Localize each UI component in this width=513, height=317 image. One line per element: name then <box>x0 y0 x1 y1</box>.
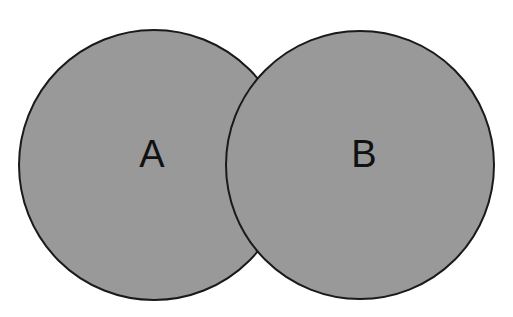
venn-diagram-figure: A B <box>0 0 513 317</box>
venn-diagram-canvas: A B <box>0 0 513 317</box>
set-label-b: B <box>351 133 376 175</box>
set-label-a: A <box>139 133 165 175</box>
